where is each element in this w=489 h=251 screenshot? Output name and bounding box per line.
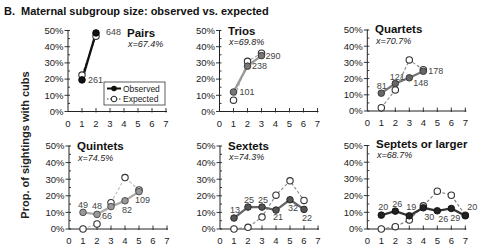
count-label: 48 [92,201,102,211]
x-tick-label: 3 [108,235,113,246]
panel-title: Pairs [127,27,155,39]
x-tick-label: 3 [259,235,264,246]
y-tick-label: 20% [344,190,364,201]
x-tick-label: 6 [449,117,454,128]
x-tick-label: 3 [407,235,412,246]
observed-marker [93,30,100,37]
count-label: 25 [244,195,254,205]
expected-marker [434,188,440,194]
y-tick-label: 30% [344,57,364,68]
observed-marker [420,204,427,211]
x-tick-label: 6 [301,118,306,129]
panel-title: Septets or larger [376,138,468,150]
y-tick-label: 10% [45,207,65,218]
x-tick-label: 3 [259,118,264,129]
expected-marker [230,97,236,103]
observed-marker [301,206,308,213]
count-label: 261 [88,75,103,85]
x-tick-label: 2 [245,235,250,246]
y-tick-label: 10% [344,89,364,100]
legend-expected-label: Expected [123,94,159,104]
expected-marker [378,105,384,111]
panel-title: Trios [228,25,255,37]
observed-marker [108,203,115,210]
count-label: 26 [438,214,448,224]
panel-mean-label: x=67.4% [127,39,163,49]
observed-marker [406,213,413,220]
count-label: 20 [467,202,477,212]
x-tick-label: 7 [463,117,468,128]
observed-marker [406,74,413,81]
x-tick-label: 1 [231,118,236,129]
count-label: 238 [252,61,267,71]
y-tick-label: 40% [45,157,65,168]
count-label: 26 [392,199,402,209]
y-tick-label: 40% [344,157,364,168]
y-tick-label: 50% [196,25,216,36]
x-tick-label: 5 [435,235,440,246]
count-label: 29 [450,213,460,223]
expected-marker [245,224,251,230]
y-tick-label: 0% [50,106,64,117]
y-tick-label: 20% [196,190,216,201]
y-tick-label: 20% [45,190,65,201]
panel-trios: 0%10%20%30%40%50%01234567Triosx=69.8%101… [196,25,320,129]
expected-marker [231,226,237,232]
panel-title: Quintets [77,140,124,152]
count-label: 178 [428,66,443,76]
x-tick-label: 4 [121,118,126,129]
panel-mean-label: x=74.3% [228,152,264,162]
y-axis-label: Prop. of sightings with cubs [19,71,31,218]
x-tick-label: 6 [149,118,154,129]
x-tick-label: 0 [365,235,370,246]
expected-marker [392,87,398,93]
count-label: 30 [424,212,434,222]
count-label: 25 [258,195,268,205]
panel-mean-label: x=70.7% [375,36,411,46]
y-tick-label: 50% [344,140,364,151]
x-tick-label: 7 [164,235,169,246]
x-tick-label: 2 [393,235,398,246]
y-tick-label: 40% [196,41,216,52]
legend-expected-marker [111,96,117,102]
count-label: 32 [288,203,298,213]
panel-title: Sextets [228,140,269,152]
panel-letter: B. [4,5,15,17]
y-tick-label: 40% [344,41,364,52]
x-tick-label: 0 [65,118,70,129]
observed-marker [420,68,427,75]
y-tick-label: 20% [344,73,364,84]
count-label: 81 [377,81,387,91]
panel-septets-or-larger: 0%10%20%30%40%50%01234567Septets or larg… [344,138,478,246]
observed-marker [230,89,237,96]
figure-title: B. Maternal subgroup size: observed vs. … [4,5,269,17]
x-tick-label: 6 [449,235,454,246]
observed-marker [462,213,469,220]
x-tick-label: 1 [379,117,384,128]
expected-marker [273,192,279,198]
x-tick-label: 0 [365,117,370,128]
x-tick-label: 2 [393,117,398,128]
panel-quartets: 0%10%20%30%40%50%01234567Quartetsx=70.7%… [344,23,468,128]
y-tick-label: 40% [44,41,64,52]
expected-marker [301,197,307,203]
expected-marker [392,223,398,229]
count-label: 49 [78,200,88,210]
observed-marker [231,215,238,222]
x-tick-label: 2 [93,118,98,129]
count-label: 109 [135,195,150,205]
count-label: 101 [240,87,255,97]
expected-marker [287,178,293,184]
count-label: 121 [390,72,405,82]
x-tick-label: 1 [80,235,85,246]
legend: ObservedExpected [104,82,165,105]
expected-marker [448,192,454,198]
expected-marker [122,174,128,180]
y-tick-label: 30% [44,57,64,68]
observed-marker [378,212,385,219]
x-tick-label: 4 [421,235,426,246]
x-tick-label: 7 [163,118,168,129]
x-tick-label: 4 [421,117,426,128]
y-tick-label: 30% [344,173,364,184]
x-tick-label: 0 [217,235,222,246]
